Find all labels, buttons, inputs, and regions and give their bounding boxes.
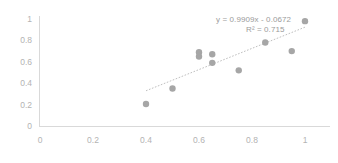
data-point — [289, 48, 295, 54]
y-axis-tick-label: 0.8 — [8, 36, 32, 45]
y-axis-tick-label: 0.4 — [8, 79, 32, 88]
x-axis-tick-label: 0.6 — [193, 136, 205, 145]
data-point — [262, 39, 268, 45]
data-point — [169, 85, 175, 91]
x-axis-tick-label: 0.8 — [246, 136, 258, 145]
x-axis-tick-label: 0 — [38, 136, 43, 145]
trendline-r-squared-label: R² = 0.715 — [246, 25, 285, 34]
y-axis-tick-label: 1 — [8, 15, 32, 24]
x-axis-tick-label: 0.4 — [140, 136, 152, 145]
y-axis-tick-label: 0.2 — [8, 100, 32, 109]
plot-area — [0, 0, 338, 163]
x-axis-tick-label: 0.2 — [87, 136, 99, 145]
scatter-chart: 00.20.40.60.81 00.20.40.60.81 y = 0.9909… — [0, 0, 338, 163]
data-point — [236, 67, 242, 73]
trendline — [146, 27, 305, 91]
y-axis-tick-label: 0 — [8, 122, 32, 131]
data-point — [302, 18, 308, 24]
data-point — [143, 101, 149, 107]
x-axis-tick-label: 1 — [303, 136, 308, 145]
data-point — [209, 60, 215, 66]
trendline-equation-label: y = 0.9909x - 0.0672 — [216, 15, 291, 24]
data-point — [209, 51, 215, 57]
data-point — [196, 53, 202, 59]
y-axis-tick-label: 0.6 — [8, 58, 32, 67]
trendline-path — [146, 27, 305, 91]
